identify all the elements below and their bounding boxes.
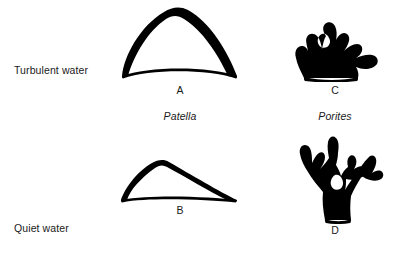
panel-letter-c: C [305,84,365,96]
row-label-quiet-water: Quiet water [14,222,69,234]
panel-letter-a: A [150,84,210,96]
species-name-patella: Patella [125,110,235,122]
species-name-porites: Porites [290,110,380,122]
morphology-comparison-figure: Turbulent water Quiet water Patella Pori… [0,0,415,253]
specimen-d-porites-branching-coral [288,132,386,224]
panel-letter-d: D [305,224,365,236]
specimen-c-porites-squat-coral [292,20,382,82]
panel-letter-b: B [150,204,210,216]
specimen-a-patella-tall-shell [118,4,242,80]
specimen-b-patella-flat-shell [118,152,242,204]
row-label-turbulent-water: Turbulent water [14,64,88,76]
